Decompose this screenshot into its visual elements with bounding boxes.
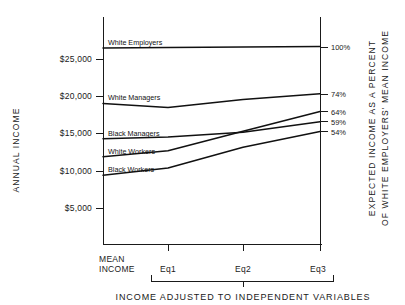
- right-label-74: 74%: [331, 90, 346, 99]
- right-label-54: 54%: [331, 128, 346, 137]
- y-tick-label-5000: $5,000: [65, 203, 92, 213]
- y-tick-label-15000: $15,000: [60, 128, 92, 138]
- right-label-64: 64%: [331, 108, 346, 117]
- series-label-black-managers: Black Managers: [108, 129, 160, 138]
- y-axis-title-right-line1: EXPECTED INCOME AS A PERCENT: [367, 40, 377, 216]
- x-label-eq1: Eq1: [160, 264, 176, 274]
- x-axis-title: INCOME ADJUSTED TO INDEPENDENT VARIABLES: [116, 292, 371, 302]
- y-axis-title-left: ANNUAL INCOME: [11, 108, 21, 193]
- right-label-59: 59%: [331, 118, 346, 127]
- series-label-white-employers: White Employers: [108, 38, 163, 47]
- x-label-mean-line2: INCOME: [99, 264, 135, 274]
- y-tick-label-10000: $10,000: [60, 166, 92, 176]
- series-label-white-workers: White Workers: [108, 147, 155, 156]
- xaxis-bracket: [151, 275, 333, 281]
- series-label-black-workers: Black Workers: [108, 165, 155, 174]
- y-tick-label-25000: $25,000: [60, 54, 92, 64]
- series-label-white-managers: White Managers: [108, 93, 161, 102]
- x-label-eq3: Eq3: [310, 264, 326, 274]
- x-label-eq2: Eq2: [235, 264, 251, 274]
- right-label-100: 100%: [331, 43, 351, 52]
- y-tick-label-20000: $20,000: [60, 91, 92, 101]
- y-axis-title-right-line2: OF WHITE EMPLOYERS' MEAN INCOME: [380, 30, 390, 226]
- x-label-mean-line1: MEAN: [99, 254, 125, 264]
- income-line-chart: $25,000 $20,000 $15,000 $10,000 $5,000 M…: [0, 0, 405, 305]
- chart-page: $25,000 $20,000 $15,000 $10,000 $5,000 M…: [0, 0, 405, 305]
